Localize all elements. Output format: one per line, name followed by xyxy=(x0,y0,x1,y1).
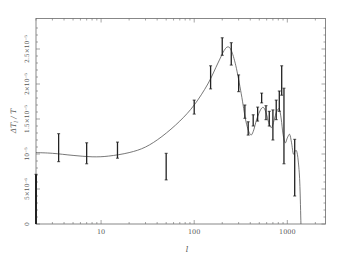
y-tick-label: 10⁻⁵ xyxy=(23,147,30,161)
plot-frame xyxy=(36,19,326,225)
svg-text:2.5×10⁻⁵: 2.5×10⁻⁵ xyxy=(23,35,30,63)
y-axis-label-tail: / T xyxy=(9,108,18,121)
y-axis-label: ΔTl / T xyxy=(9,108,19,134)
y-axis-ticks: 05×10⁻⁶10⁻⁵1.5×10⁻⁵2×10⁻⁵2.5×10⁻⁵ xyxy=(23,28,326,226)
x-tick-label: 10 xyxy=(97,228,105,236)
plot-canvas: 101001000 05×10⁻⁶10⁻⁵1.5×10⁻⁵2×10⁻⁵2.5×1… xyxy=(0,0,339,260)
cmb-power-spectrum-chart: 101001000 05×10⁻⁶10⁻⁵1.5×10⁻⁵2×10⁻⁵2.5×1… xyxy=(0,0,339,260)
svg-text:ΔTl / T: ΔTl / T xyxy=(9,108,19,134)
svg-text:5×10⁻⁶: 5×10⁻⁶ xyxy=(23,177,30,200)
y-tick-label: 2×10⁻⁵ xyxy=(23,72,30,95)
model-line xyxy=(36,47,301,224)
data-error-bars xyxy=(35,38,297,224)
model-curve xyxy=(36,47,301,224)
svg-text:0: 0 xyxy=(23,222,30,226)
y-tick-label: 0 xyxy=(23,222,30,226)
x-axis-label: l xyxy=(186,245,189,254)
y-tick-label: 5×10⁻⁶ xyxy=(23,177,30,200)
svg-text:1.5×10⁻⁵: 1.5×10⁻⁵ xyxy=(23,105,30,133)
y-tick-label: 1.5×10⁻⁵ xyxy=(23,105,30,133)
svg-text:10⁻⁵: 10⁻⁵ xyxy=(23,147,30,161)
x-tick-label: 100 xyxy=(188,228,200,236)
y-tick-label: 2.5×10⁻⁵ xyxy=(23,35,30,63)
x-tick-label: 1000 xyxy=(279,228,296,236)
svg-text:2×10⁻⁵: 2×10⁻⁵ xyxy=(23,72,30,95)
